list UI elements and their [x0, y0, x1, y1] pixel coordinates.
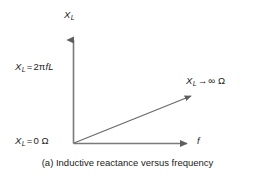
figure-inductive-reactance: XL f XL=2πfL XL=0 Ω XL→∞ Ω (a) Inductive…	[0, 0, 255, 176]
y-axis-subscript: L	[70, 14, 74, 21]
figure-caption: (a) Inductive reactance versus frequency	[0, 157, 255, 168]
formula-variable-l: L	[48, 61, 53, 72]
limit-value-operator: →	[197, 75, 209, 86]
limit-value-number: ∞	[208, 75, 215, 86]
plot-area	[0, 0, 255, 176]
limit-value-unit: Ω	[218, 75, 225, 86]
y-axis-label: XL	[64, 10, 75, 21]
formula-expression: 2π	[33, 61, 45, 72]
x-axis-symbol: f	[197, 135, 200, 146]
x-axis-label: f	[197, 136, 200, 146]
reactance-ray	[74, 96, 191, 143]
origin-value-number: 0	[33, 135, 38, 146]
origin-value-annotation: XL=0 Ω	[15, 136, 49, 147]
origin-value-unit: Ω	[42, 135, 49, 146]
formula-annotation: XL=2πfL	[15, 62, 54, 73]
limit-value-annotation: XL→∞ Ω	[186, 76, 225, 87]
